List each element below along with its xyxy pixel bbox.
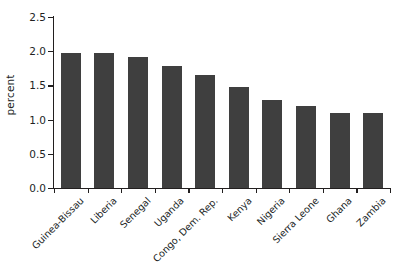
x-axis-tick-label: Senegal [117, 195, 152, 230]
y-axis-title-label: percent [4, 75, 16, 116]
bar [330, 113, 350, 188]
y-axis-tick-mark [48, 85, 53, 86]
y-axis-tick-label: 0.0 [29, 182, 46, 194]
x-axis-tick-label: Nigeria [255, 195, 287, 227]
x-axis-tick-label: Guinea-Bissau [29, 195, 85, 251]
x-axis-tick-label: Congo, Dem. Rep. [151, 195, 220, 262]
x-axis-tick-label: Zambia [354, 195, 388, 229]
bar [94, 53, 114, 188]
y-axis-tick-label: 1.0 [29, 114, 46, 126]
x-axis-tick-mark [289, 188, 290, 193]
x-axis-tick-label: Liberia [88, 195, 119, 226]
bar-chart-figure: percent 0.00.51.01.52.02.5 Guinea-Bissau… [0, 0, 417, 262]
bar [195, 75, 215, 188]
bar [363, 113, 383, 188]
x-axis-tick-mark [256, 188, 257, 193]
x-axis-tick-mark [356, 188, 357, 193]
x-axis-tick-label: Kenya [225, 195, 254, 224]
bar [162, 66, 182, 188]
plot-area: 0.00.51.01.52.02.5 [54, 17, 390, 188]
x-axis-tick-mark [88, 188, 89, 193]
bar [262, 100, 282, 188]
x-axis-tick-label: Sierra Leone [270, 195, 320, 245]
x-axis-tick-label: Ghana [324, 195, 354, 225]
x-axis-tick-mark [323, 188, 324, 193]
y-axis-tick-mark [48, 17, 53, 18]
x-axis-tick-mark [222, 188, 223, 193]
x-axis-tick-mark [54, 188, 55, 193]
y-axis-tick-mark [48, 154, 53, 155]
y-axis-tick-label: 1.5 [29, 79, 46, 91]
y-axis-tick-mark [48, 51, 53, 52]
bars-layer [54, 17, 390, 188]
x-axis-tick-label: Uganda [152, 195, 186, 229]
x-axis-tick-mark [188, 188, 189, 193]
bar [229, 87, 249, 188]
y-axis-tick-label: 2.0 [29, 45, 46, 57]
bar [296, 106, 316, 188]
bar [61, 53, 81, 188]
y-axis-tick-label: 0.5 [29, 148, 46, 160]
y-axis-tick-mark [48, 188, 53, 189]
y-axis-tick-label: 2.5 [29, 11, 46, 23]
x-axis-tick-mark [390, 188, 391, 193]
x-axis-tick-mark [121, 188, 122, 193]
y-axis-tick-mark [48, 120, 53, 121]
y-axis-title: percent [0, 0, 20, 190]
bar [128, 57, 148, 188]
x-axis-tick-mark [155, 188, 156, 193]
